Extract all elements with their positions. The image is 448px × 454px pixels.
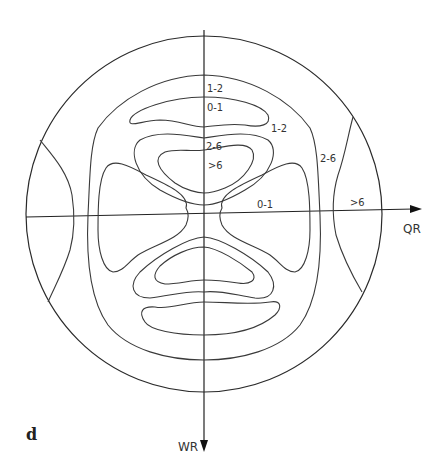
pole-figure-diagram: 1-2 0-1 1-2 2-6 >6 2-6 0-1 >6 QR WR d: [0, 0, 448, 454]
label-right-edge: >6: [350, 196, 365, 209]
contour-left-edge: [40, 140, 74, 302]
panel-label: d: [26, 425, 37, 444]
wr-axis-label: WR: [178, 440, 198, 454]
label-top-inner: 0-1: [207, 101, 223, 114]
label-right-band: 2-6: [320, 152, 336, 165]
label-upper-right: 1-2: [271, 122, 287, 135]
contour-lower-bean: [142, 302, 280, 335]
label-right-mid: 0-1: [257, 198, 273, 211]
qr-axis-arrowhead: [410, 205, 422, 213]
label-center-peak: >6: [208, 159, 223, 172]
wr-axis-arrowhead: [200, 440, 208, 452]
label-top-outer: 1-2: [207, 82, 223, 95]
label-center-upper: 2-6: [206, 140, 222, 153]
contour-right-lobe: [220, 163, 310, 272]
contour-top-bean: [130, 97, 269, 127]
qr-axis-label: QR: [403, 222, 421, 236]
